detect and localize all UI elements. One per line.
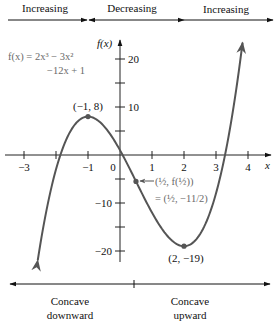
y-tick-label: −20 <box>95 245 113 257</box>
interval-label-increasing-1: Increasing <box>22 2 68 14</box>
concave-down-label-1: Concave <box>51 295 90 307</box>
y-axis-label: f(x) <box>97 37 113 50</box>
function-label: f(x) = 2x³ − 3x² −12x + 1 <box>8 51 85 76</box>
inflection-label-line2: = (½, −11/2) <box>155 193 208 205</box>
x-tick-label: 4 <box>245 161 251 173</box>
x-tick-label: −3 <box>18 161 30 173</box>
local-max-label: (−1, 8) <box>73 100 103 113</box>
inflection-point <box>133 179 138 184</box>
concave-up-label-1: Concave <box>171 295 210 307</box>
inflection-label-line1: (½, f(½)) <box>155 176 194 188</box>
x-tick-label: 0 <box>110 161 116 173</box>
cubic-function-diagram: Increasing Decreasing Increasing x f(x) … <box>0 0 278 332</box>
interval-label-decreasing: Decreasing <box>107 2 157 14</box>
x-tick-label: 2 <box>181 161 187 173</box>
x-tick-label: −1 <box>82 161 94 173</box>
concave-up-label-2: upward <box>174 309 207 321</box>
critical-points: (−1, 8) (2, −19) (½, f(½)) = (½, −11/2) <box>73 100 208 266</box>
concave-down-label-2: downward <box>47 309 94 321</box>
x-ticks: −3−101234 <box>18 151 251 173</box>
function-label-line1: f(x) = 2x³ − 3x² <box>8 51 73 63</box>
function-label-line2: −12x + 1 <box>47 65 85 76</box>
local-min-point <box>181 244 186 249</box>
y-tick-label: 10 <box>128 101 140 113</box>
axes: x f(x) −3−101234 2010−10−20 <box>5 37 271 262</box>
interval-label-increasing-2: Increasing <box>203 3 249 15</box>
local-max-point <box>85 114 90 119</box>
concavity-bar: Concave downward Concave upward <box>10 280 270 321</box>
x-tick-label: 3 <box>213 161 219 173</box>
x-axis-label: x <box>264 159 270 171</box>
local-min-label: (2, −19) <box>168 252 204 265</box>
monotonicity-bar: Increasing Decreasing Increasing <box>8 2 273 20</box>
y-tick-label: −10 <box>95 197 113 209</box>
x-tick-label: 1 <box>149 161 155 173</box>
y-tick-label: 20 <box>128 53 140 65</box>
